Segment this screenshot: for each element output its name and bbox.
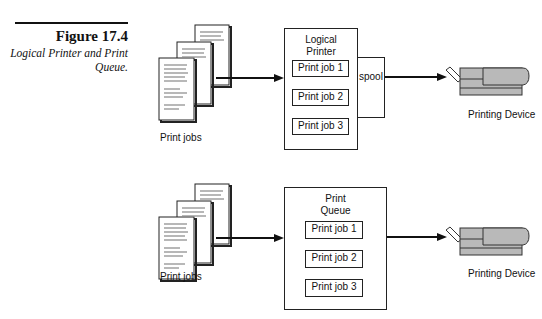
print-queue-title-2: Queue bbox=[285, 205, 386, 217]
printing-device-label: Printing Device bbox=[468, 109, 535, 120]
printing-device-label: Printing Device bbox=[468, 268, 535, 279]
print-job-1: Print job 1 bbox=[292, 60, 349, 77]
arrow-head-icon bbox=[274, 74, 284, 82]
print-queue-title-1: Print bbox=[285, 193, 386, 205]
print-job-3: Print job 3 bbox=[305, 279, 363, 297]
document-stack-icon bbox=[155, 181, 235, 285]
print-job-2: Print job 2 bbox=[305, 250, 363, 268]
print-jobs-label: Print jobs bbox=[160, 271, 202, 282]
figure-caption: Logical Printer and Print Queue. bbox=[0, 46, 128, 74]
figure-number: Figure 17.4 bbox=[0, 28, 128, 45]
logical-printer-title-1: Logical bbox=[285, 34, 357, 46]
caption-rule bbox=[15, 22, 128, 24]
document-stack-icon bbox=[155, 22, 235, 126]
printer-icon bbox=[444, 64, 534, 100]
print-jobs-label: Print jobs bbox=[160, 132, 202, 143]
arrow-to-logical-printer bbox=[216, 77, 274, 79]
spool-box bbox=[357, 57, 385, 118]
print-job-1: Print job 1 bbox=[305, 221, 363, 239]
arrow-to-print-queue bbox=[216, 237, 274, 239]
arrow-to-printing-device bbox=[385, 76, 439, 78]
arrow-head-icon bbox=[274, 234, 284, 242]
printer-icon bbox=[444, 224, 534, 260]
print-job-2: Print job 2 bbox=[292, 89, 349, 106]
spool-label: spool bbox=[359, 71, 383, 82]
logical-printer-title-2: Printer bbox=[285, 46, 357, 58]
arrow-to-printing-device bbox=[387, 236, 439, 238]
print-job-3: Print job 3 bbox=[292, 118, 349, 135]
